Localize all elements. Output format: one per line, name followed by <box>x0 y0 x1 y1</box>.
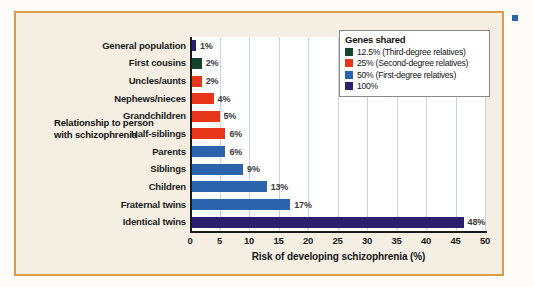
bar-value-label: 13% <box>271 182 288 192</box>
legend-item[interactable]: 12.5% (Third-degree relatives) <box>345 46 484 58</box>
side-caption-line <box>512 58 534 69</box>
bar-value-label: 2% <box>206 58 219 68</box>
bar[interactable] <box>190 181 267 192</box>
category-label: Parents <box>22 146 186 157</box>
side-caption-cropped <box>512 14 534 84</box>
x-axis-title: Risk of developing schizophrenia (%) <box>190 251 487 262</box>
category-label: Uncles/aunts <box>22 75 186 86</box>
x-tick-label: 45 <box>450 235 460 246</box>
x-tick-label: 5 <box>217 235 222 246</box>
bar-row[interactable]: 6% <box>190 125 485 143</box>
bar-value-label: 6% <box>229 129 242 139</box>
bar[interactable] <box>190 93 214 104</box>
legend-item-label: 100% <box>357 81 378 91</box>
bar-value-label: 6% <box>229 147 242 157</box>
bar-value-label: 4% <box>218 94 231 104</box>
x-tick-label: 40 <box>421 235 431 246</box>
side-caption-swatch-icon <box>512 15 518 21</box>
x-tick-label: 50 <box>480 235 490 246</box>
x-axis-line <box>190 231 487 233</box>
x-tick-label: 0 <box>187 235 192 246</box>
category-label: Half-siblings <box>22 128 186 139</box>
legend-item-label: 12.5% (Third-degree relatives) <box>357 47 466 57</box>
bar-row[interactable]: 9% <box>190 160 485 178</box>
category-label: Siblings <box>22 163 186 174</box>
bar-row[interactable]: 13% <box>190 178 485 196</box>
x-tick-label: 15 <box>273 235 283 246</box>
legend-item-list: 12.5% (Third-degree relatives)25% (Secon… <box>345 46 484 92</box>
figure-frame: Relationship to person with schizophreni… <box>14 11 504 276</box>
x-tick-label: 20 <box>303 235 313 246</box>
bar-value-label: 9% <box>247 164 260 174</box>
bar[interactable] <box>190 128 225 139</box>
category-label: Fraternal twins <box>22 199 186 210</box>
x-tick-label: 30 <box>362 235 372 246</box>
category-label: General population <box>22 40 186 51</box>
bar-row[interactable]: 48% <box>190 213 485 231</box>
screenshot-root: Relationship to person with schizophreni… <box>0 0 534 287</box>
legend-swatch-icon <box>345 82 353 90</box>
bar-value-label: 5% <box>224 111 237 121</box>
bar[interactable] <box>190 217 464 228</box>
bar[interactable] <box>190 164 243 175</box>
category-label: Children <box>22 181 186 192</box>
x-tick-label: 35 <box>391 235 401 246</box>
bar-row[interactable]: 6% <box>190 143 485 161</box>
x-tick-label: 25 <box>332 235 342 246</box>
legend-swatch-icon <box>345 71 353 79</box>
legend-item[interactable]: 50% (First-degree relatives) <box>345 69 484 81</box>
legend-item-label: 25% (Second-degree relatives) <box>357 58 468 68</box>
legend-item-label: 50% (First-degree relatives) <box>357 70 456 80</box>
bar-value-label: 17% <box>294 200 311 210</box>
side-caption-line <box>512 25 534 36</box>
legend-item[interactable]: 25% (Second-degree relatives) <box>345 58 484 70</box>
bar[interactable] <box>190 146 225 157</box>
legend-title: Genes shared <box>345 34 484 45</box>
category-label-column: General populationFirst cousinsUncles/au… <box>16 37 186 231</box>
side-caption-line <box>512 47 534 58</box>
bar-row[interactable]: 5% <box>190 108 485 126</box>
x-tick-label: 10 <box>244 235 254 246</box>
category-label: Grandchildren <box>22 110 186 121</box>
bar-value-label: 48% <box>468 217 485 227</box>
category-label: First cousins <box>22 57 186 68</box>
category-label: Identical twins <box>22 216 186 227</box>
bar[interactable] <box>190 111 220 122</box>
bar-row[interactable]: 17% <box>190 196 485 214</box>
bar[interactable] <box>190 199 290 210</box>
legend-swatch-icon <box>345 48 353 56</box>
side-caption-line <box>512 36 534 47</box>
bar-value-label: 2% <box>206 76 219 86</box>
bar-value-label: 1% <box>200 41 213 51</box>
legend-item[interactable]: 100% <box>345 81 484 93</box>
side-caption-line <box>512 14 534 25</box>
legend-swatch-icon <box>345 59 353 67</box>
legend: Genes shared 12.5% (Third-degree relativ… <box>339 30 490 97</box>
y-axis-line <box>190 37 192 231</box>
category-label: Nephews/nieces <box>22 93 186 104</box>
